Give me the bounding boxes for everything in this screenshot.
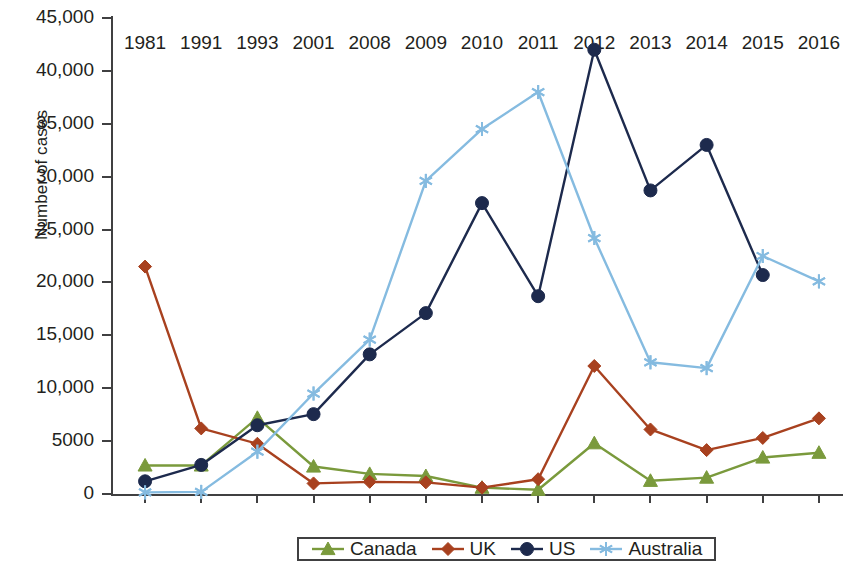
- data-point: [476, 197, 489, 210]
- chart-legend: CanadaUKUSAustralia: [297, 537, 716, 561]
- x-axis-tick: [256, 494, 258, 503]
- series-line: [145, 418, 819, 490]
- series-uk: [139, 260, 826, 494]
- data-point: [195, 422, 208, 435]
- chart-figure: Number of cases 0500010,00015,00020,0002…: [0, 0, 849, 567]
- y-axis-tick-label: 10,000: [36, 376, 94, 398]
- y-axis-tick-label: 30,000: [36, 165, 94, 187]
- circle-marker-icon: [510, 540, 544, 558]
- y-axis-tick: 10,000: [102, 387, 111, 389]
- data-point: [195, 458, 208, 471]
- x-axis-tick: [706, 494, 708, 503]
- diamond-marker-icon: [431, 540, 465, 558]
- data-point: [307, 408, 320, 421]
- x-axis-tick: [313, 494, 315, 503]
- data-point: [756, 269, 769, 282]
- data-point: [813, 274, 825, 288]
- y-axis-tick-label: 40,000: [36, 59, 94, 81]
- y-axis-tick: 20,000: [102, 281, 111, 283]
- data-point: [532, 85, 544, 99]
- data-point: [419, 307, 432, 320]
- data-point: [363, 348, 376, 361]
- y-axis-tick-label: 5000: [52, 429, 94, 451]
- data-point: [532, 473, 545, 486]
- series-line: [145, 267, 819, 488]
- legend-item-australia[interactable]: Australia: [589, 539, 702, 558]
- x-axis-tick: [762, 494, 764, 503]
- asterisk-marker-icon: [589, 540, 623, 558]
- data-point: [700, 444, 713, 457]
- y-axis-tick: 0: [102, 493, 111, 495]
- data-point: [251, 419, 264, 432]
- legend-item-us[interactable]: US: [510, 539, 575, 558]
- y-axis-tick: 40,000: [102, 70, 111, 72]
- y-axis-tick: 25,000: [102, 229, 111, 231]
- plot-area: 0500010,00015,00020,00025,00030,00035,00…: [111, 18, 841, 494]
- x-axis-tick: [425, 494, 427, 503]
- y-axis-tick-label: 45,000: [36, 6, 94, 28]
- data-point: [588, 231, 600, 245]
- y-axis-tick-label: 35,000: [36, 112, 94, 134]
- y-axis-tick-label: 15,000: [36, 323, 94, 345]
- data-point: [757, 249, 769, 263]
- data-point: [587, 436, 601, 449]
- data-point: [532, 290, 545, 303]
- series-line: [145, 50, 763, 482]
- data-point: [139, 260, 152, 273]
- x-axis-tick: [481, 494, 483, 503]
- triangle-marker-icon: [311, 540, 345, 558]
- y-axis-tick: 5000: [102, 440, 111, 442]
- data-point: [644, 184, 657, 197]
- x-axis-tick: [369, 494, 371, 503]
- legend-label: US: [549, 539, 575, 558]
- legend-label: UK: [470, 539, 496, 558]
- data-point: [756, 431, 769, 444]
- x-axis-line: [111, 494, 843, 496]
- data-point: [700, 138, 713, 151]
- legend-item-uk[interactable]: UK: [431, 539, 496, 558]
- y-axis-tick-label: 25,000: [36, 218, 94, 240]
- legend-item-canada[interactable]: Canada: [311, 539, 417, 558]
- x-axis-tick: [593, 494, 595, 503]
- data-point: [812, 412, 825, 425]
- y-axis-tick: 45,000: [102, 17, 111, 19]
- y-axis-tick: 15,000: [102, 334, 111, 336]
- y-axis-tick: 35,000: [102, 123, 111, 125]
- y-axis-tick-label: 0: [83, 482, 94, 504]
- series-us: [139, 43, 770, 488]
- data-point: [588, 43, 601, 56]
- series-lines: [111, 18, 841, 494]
- y-axis-tick: 30,000: [102, 176, 111, 178]
- x-axis-tick: [649, 494, 651, 503]
- x-axis-tick: [818, 494, 820, 503]
- legend-label: Australia: [628, 539, 702, 558]
- y-axis-tick-label: 20,000: [36, 270, 94, 292]
- legend-label: Canada: [350, 539, 417, 558]
